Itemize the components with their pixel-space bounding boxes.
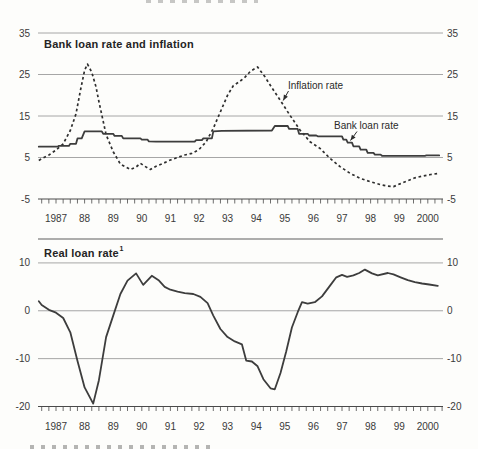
svg-text:90: 90: [136, 213, 148, 224]
charts-canvas: 35352525151555-5-51987888990919293949596…: [0, 0, 478, 449]
svg-text:90: 90: [136, 421, 148, 432]
svg-text:99: 99: [394, 421, 406, 432]
svg-text:35: 35: [19, 28, 31, 39]
svg-text:91: 91: [165, 421, 177, 432]
svg-text:94: 94: [251, 213, 263, 224]
svg-text:10: 10: [447, 257, 459, 268]
svg-text:1987: 1987: [45, 421, 68, 432]
inflation-rate-series-label: Inflation rate: [288, 80, 343, 91]
svg-text:5: 5: [447, 152, 453, 163]
svg-text:-5: -5: [447, 194, 456, 205]
svg-text:89: 89: [108, 213, 120, 224]
svg-text:92: 92: [193, 213, 205, 224]
svg-text:94: 94: [251, 421, 263, 432]
svg-text:95: 95: [279, 213, 291, 224]
svg-text:96: 96: [308, 421, 320, 432]
footnote-marker: 1: [119, 245, 123, 252]
real-loan-rate-chart: 101000-10-10-20-201987888990919293949596…: [16, 239, 462, 432]
svg-text:98: 98: [365, 421, 377, 432]
svg-text:2000: 2000: [417, 421, 440, 432]
svg-text:35: 35: [447, 28, 459, 39]
bottom-chart-title-text: Real loan rate: [44, 247, 119, 259]
top-chart-title: Bank loan rate and inflation: [44, 38, 194, 50]
svg-text:97: 97: [336, 421, 348, 432]
svg-text:-20: -20: [447, 401, 462, 412]
svg-text:92: 92: [193, 421, 205, 432]
svg-text:0: 0: [24, 305, 30, 316]
svg-text:93: 93: [222, 421, 234, 432]
svg-text:93: 93: [222, 213, 234, 224]
svg-text:1987: 1987: [45, 213, 68, 224]
svg-text:97: 97: [336, 213, 348, 224]
svg-text:0: 0: [447, 305, 453, 316]
svg-text:15: 15: [447, 111, 459, 122]
svg-text:25: 25: [447, 69, 459, 80]
svg-text:91: 91: [165, 213, 177, 224]
svg-text:5: 5: [24, 152, 30, 163]
svg-text:25: 25: [19, 69, 31, 80]
svg-text:99: 99: [394, 213, 406, 224]
svg-text:88: 88: [79, 421, 91, 432]
svg-text:89: 89: [108, 421, 120, 432]
svg-text:96: 96: [308, 213, 320, 224]
figure-page: 35352525151555-5-51987888990919293949596…: [0, 0, 478, 449]
svg-text:-5: -5: [21, 194, 30, 205]
cropped-text-fragment-bottom: [30, 445, 212, 449]
svg-text:98: 98: [365, 213, 377, 224]
svg-text:-20: -20: [16, 401, 31, 412]
svg-text:-10: -10: [16, 353, 31, 364]
bottom-chart-title: Real loan rate1: [44, 246, 123, 259]
svg-text:10: 10: [19, 257, 31, 268]
svg-text:88: 88: [79, 213, 91, 224]
svg-text:-10: -10: [447, 353, 462, 364]
bank-loan-rate-series-label: Bank loan rate: [334, 120, 399, 131]
svg-text:95: 95: [279, 421, 291, 432]
svg-text:15: 15: [19, 111, 31, 122]
svg-text:2000: 2000: [417, 213, 440, 224]
